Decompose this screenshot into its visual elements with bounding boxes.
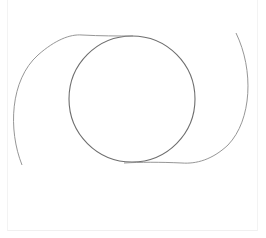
center-circle	[69, 36, 195, 162]
sketch-svg	[0, 0, 266, 238]
right-arc-stroke	[124, 33, 248, 163]
left-arc-stroke	[14, 35, 133, 165]
drawing-canvas	[0, 0, 266, 238]
